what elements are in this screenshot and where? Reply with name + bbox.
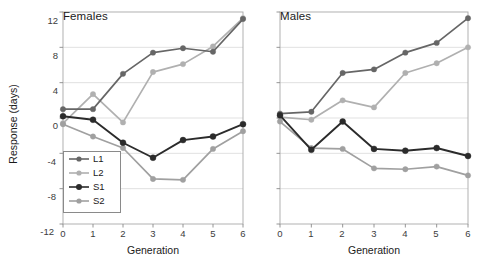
legend-item-s1[interactable]: S1	[64, 180, 120, 194]
panel-title-females: Females	[63, 10, 108, 22]
y-tick-label: 8	[30, 50, 58, 61]
x-tick-label: 0	[270, 228, 290, 239]
x-tick-label: 4	[173, 228, 193, 239]
y-tick-label: -4	[28, 156, 56, 167]
legend-symbol-l1	[68, 153, 90, 165]
x-axis-title-females: Generation	[63, 244, 243, 256]
x-tick-label: 5	[203, 228, 223, 239]
x-axis-title-males: Generation	[280, 244, 468, 256]
panel-females: Females 12 8 4 0 -4 -8 -12 0 1 2 3 4 5 6…	[0, 0, 250, 266]
x-tick-label: 0	[53, 228, 73, 239]
x-tick-label: 6	[458, 228, 478, 239]
legend-symbol-l2	[68, 167, 90, 179]
legend-symbol-s1	[68, 181, 90, 193]
plot-area-males	[250, 0, 486, 266]
x-tick-label: 3	[143, 228, 163, 239]
legend: L1 L2 S1 S2	[63, 151, 121, 213]
figure-root: Response (days) Females 12 8 4 0 -4 -8 -…	[0, 0, 486, 266]
x-tick-label: 2	[332, 228, 352, 239]
x-tick-label: 5	[426, 228, 446, 239]
panel-males: Males 0 1 2 3 4 5 6 Generation	[250, 0, 486, 266]
legend-symbol-s2	[68, 195, 90, 207]
legend-label-s1: S1	[93, 181, 105, 193]
y-tick-label: -8	[28, 191, 56, 202]
x-tick-label: 1	[83, 228, 103, 239]
legend-label-s2: S2	[93, 195, 105, 207]
x-tick-label: 2	[113, 228, 133, 239]
legend-item-l2[interactable]: L2	[64, 166, 120, 180]
y-tick-label: 4	[30, 85, 58, 96]
legend-label-l1: L1	[93, 153, 104, 165]
series-l1	[277, 15, 470, 116]
series-l2	[277, 45, 470, 123]
series-l1	[60, 16, 245, 112]
x-tick-label: 4	[395, 228, 415, 239]
x-tick-label: 3	[364, 228, 384, 239]
panel-title-males: Males	[280, 10, 311, 22]
y-tick-label: 12	[30, 15, 58, 26]
y-tick-label: -12	[26, 226, 54, 237]
legend-label-l2: L2	[93, 167, 104, 179]
legend-item-l1[interactable]: L1	[64, 152, 120, 166]
x-tick-label: 1	[301, 228, 321, 239]
y-tick-label: 0	[30, 120, 58, 131]
legend-item-s2[interactable]: S2	[64, 194, 120, 208]
